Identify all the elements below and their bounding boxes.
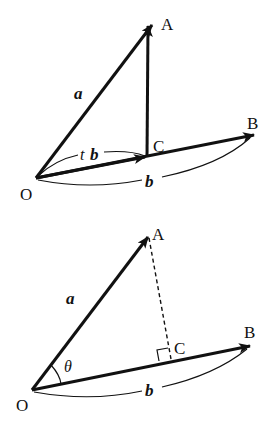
right-angle-mark [157, 348, 168, 361]
vector-ca [147, 26, 148, 157]
label-vector-a: a [66, 289, 75, 308]
label-point-a: A [152, 225, 165, 244]
label-vector-tb: b [90, 145, 99, 164]
label-angle-theta: θ [64, 358, 72, 375]
label-vector-b: b [145, 172, 154, 191]
figure-1: A B C O a t b b [20, 15, 258, 204]
angle-theta-arc [51, 365, 61, 384]
label-point-b: B [244, 323, 255, 342]
label-vector-a: a [74, 84, 83, 103]
label-vector-b: b [145, 381, 154, 400]
perpendicular-ac [149, 238, 171, 359]
label-point-o: O [16, 396, 28, 415]
brace-b-left [38, 180, 142, 185]
vector-projection-diagrams: A B C O a t b b A B C O a θ b [0, 0, 274, 436]
figure-2: A B C O a θ b [16, 225, 255, 415]
brace-tb-right [104, 152, 145, 157]
label-point-c: C [153, 137, 164, 156]
label-point-o: O [20, 185, 32, 204]
label-scalar-t: t [80, 146, 85, 163]
brace-b-left [34, 391, 142, 397]
label-point-c: C [174, 339, 185, 358]
vector-oa [32, 237, 148, 390]
label-point-a: A [161, 15, 174, 34]
label-point-b: B [247, 114, 258, 133]
